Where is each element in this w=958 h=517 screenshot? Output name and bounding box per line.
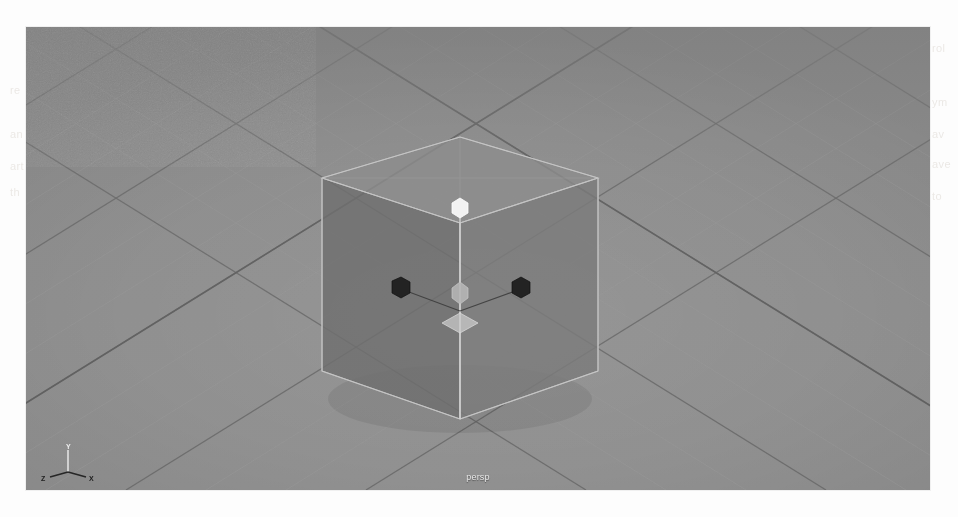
move-manipulator[interactable] — [26, 27, 930, 490]
manipulator-plane-handle[interactable] — [442, 313, 478, 333]
camera-name-label: persp — [26, 472, 930, 482]
axis-gizmo-y-label: Y — [66, 443, 71, 450]
manipulator-z-handle[interactable] — [392, 277, 410, 298]
manipulator-x-handle[interactable] — [512, 277, 530, 298]
ghost-text: art — [10, 160, 24, 172]
ghost-text: re — [10, 84, 21, 96]
ghost-text: an — [10, 128, 23, 140]
ghost-text: rol — [932, 42, 945, 54]
ghost-text: ym — [932, 96, 947, 108]
manipulator-center-handle[interactable] — [452, 282, 468, 304]
ghost-text: ave — [932, 158, 951, 170]
viewport-panel[interactable]: Y Z X persp — [26, 27, 930, 490]
ghost-text: to — [932, 190, 942, 202]
manipulator-y-handle[interactable] — [452, 198, 468, 218]
page-backdrop: reanartthrolymavaveto — [0, 0, 958, 517]
ghost-text: th — [10, 186, 20, 198]
ghost-text: av — [932, 128, 944, 140]
